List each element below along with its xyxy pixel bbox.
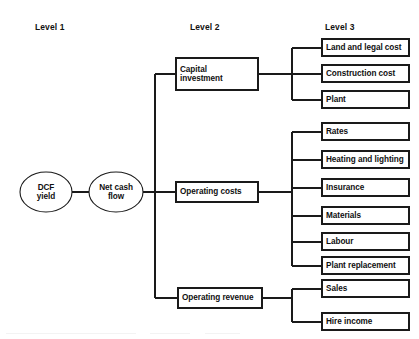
node-plant[interactable]: Plant <box>322 91 409 108</box>
scan-speckle <box>205 333 240 334</box>
node-construction-cost[interactable]: Construction cost <box>322 65 409 82</box>
node-net-cash-flow[interactable]: Net cash flow <box>89 172 143 212</box>
diagram-canvas: Level 1 Level 2 Level 3 DCF yield Net ca… <box>0 0 419 339</box>
node-land-and-legal-cost[interactable]: Land and legal cost <box>322 39 409 56</box>
scan-speckle <box>6 333 136 334</box>
node-insurance[interactable]: Insurance <box>322 179 409 196</box>
node-capital-investment[interactable]: Capital investment <box>176 58 258 90</box>
column-header-level-1: Level 1 <box>35 22 65 32</box>
node-plant-replacement[interactable]: Plant replacement <box>322 257 409 274</box>
node-sales[interactable]: Sales <box>322 280 409 297</box>
node-dcf-yield[interactable]: DCF yield <box>20 172 72 212</box>
node-materials[interactable]: Materials <box>322 207 409 224</box>
node-operating-costs[interactable]: Operating costs <box>176 182 258 202</box>
column-header-level-3: Level 3 <box>325 22 355 32</box>
node-labour[interactable]: Labour <box>322 233 409 250</box>
node-rates[interactable]: Rates <box>322 123 409 140</box>
node-hire-income[interactable]: Hire income <box>322 313 409 330</box>
node-heating-and-lighting[interactable]: Heating and lighting <box>322 151 409 168</box>
column-header-level-2: Level 2 <box>190 22 220 32</box>
node-operating-revenue[interactable]: Operating revenue <box>178 288 262 308</box>
scan-speckle <box>150 333 190 334</box>
